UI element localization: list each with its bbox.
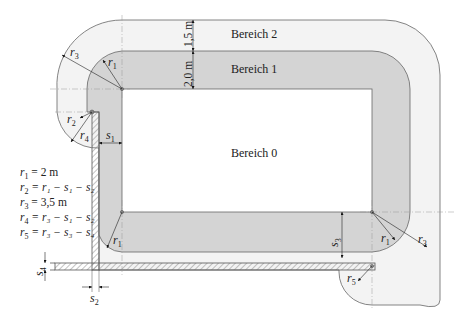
formula-r4: r4 = r₃ − s₁ − s₂	[20, 211, 94, 226]
zone-1-width-label: 2,0 m	[182, 61, 194, 87]
zone-0-label: Bereich 0	[231, 146, 277, 161]
s4-label: s4	[32, 267, 48, 276]
r1-label-top: r1	[108, 55, 117, 71]
r1-label-bottom-right: r1	[381, 231, 390, 247]
r3-label-bottom-right: r3	[418, 232, 427, 248]
r1-label-bottom-left: r1	[113, 233, 122, 249]
formula-r5: r5 = r₃ − s₃ − s₄	[20, 226, 94, 241]
zone-1-label: Bereich 1	[231, 62, 277, 77]
zone-2-label: Bereich 2	[231, 27, 277, 42]
s2-label: s2	[90, 291, 99, 307]
s1-label: s1	[106, 128, 115, 144]
formula-r3: r3 = 3,5 m	[20, 196, 67, 211]
r2-label: r2	[67, 112, 76, 128]
s3-label: s3	[327, 238, 343, 247]
horizontal-wall	[55, 263, 375, 270]
formula-r1: r1 = 2 m	[20, 166, 58, 181]
r5-label: r5	[347, 271, 356, 287]
r3-label-top: r3	[70, 45, 79, 61]
zone-2-width-label: 1,5 m	[182, 21, 194, 47]
hazard-zone-diagram	[0, 0, 458, 315]
r4-label: r4	[80, 128, 89, 144]
formula-r2: r2 = r₁ − s₁ − s₂	[20, 181, 94, 196]
